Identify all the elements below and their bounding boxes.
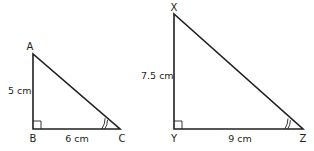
- vertex-label-y: Y: [170, 133, 178, 144]
- vertex-label-a: A: [27, 41, 34, 52]
- triangle-xyz: X Y Z 7.5 cm 9 cm: [141, 2, 307, 144]
- similar-triangles-diagram: A B C 5 cm 6 cm X Y Z 7.5 cm 9 cm: [0, 0, 314, 151]
- right-angle-marker-y: [174, 121, 182, 129]
- angle-arc-c-outer: [102, 118, 105, 129]
- side-label-yz: 9 cm: [228, 133, 252, 144]
- triangle-abc-outline: [33, 54, 120, 129]
- right-angle-marker-b: [33, 121, 41, 129]
- vertex-label-b: B: [30, 133, 37, 144]
- side-label-ab: 5 cm: [8, 85, 32, 96]
- side-label-xy: 7.5 cm: [141, 70, 174, 81]
- diagram-canvas: A B C 5 cm 6 cm X Y Z 7.5 cm 9 cm: [0, 0, 314, 151]
- vertex-label-z: Z: [300, 133, 307, 144]
- triangle-abc: A B C 5 cm 6 cm: [8, 41, 126, 144]
- vertex-label-x: X: [171, 2, 178, 13]
- side-label-bc: 6 cm: [65, 133, 89, 144]
- triangle-xyz-outline: [174, 14, 303, 129]
- vertex-label-c: C: [119, 133, 126, 144]
- angle-arc-z-outer: [285, 119, 288, 130]
